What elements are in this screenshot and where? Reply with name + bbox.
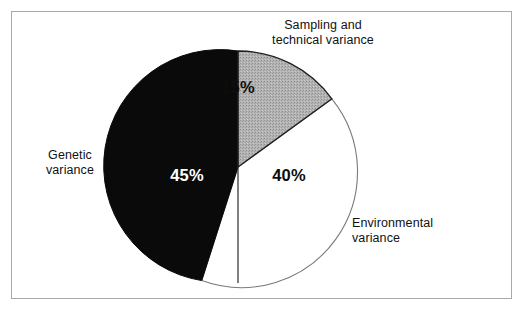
slice-value-genetic: 45% — [156, 166, 218, 185]
figure-root: Sampling and technical variance Genetic … — [0, 0, 524, 312]
slice-value-sampling: 15% — [208, 78, 268, 97]
slice-label-sampling: Sampling and technical variance — [238, 18, 408, 48]
pie-chart: Sampling and technical variance Genetic … — [0, 0, 524, 312]
slice-value-environmental: 40% — [258, 166, 320, 185]
slice-label-environmental: Environmental variance — [352, 216, 512, 246]
slice-label-genetic: Genetic variance — [22, 148, 118, 178]
